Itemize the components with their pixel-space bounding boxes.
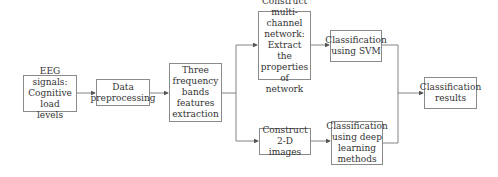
node-label: Classification results	[420, 82, 481, 104]
node-eeg-signals: EEG signals: Cognitive load levels	[23, 75, 77, 112]
node-label: Classification using deep learning metho…	[326, 121, 387, 165]
node-label: Construct multi-channel network: Extract…	[261, 0, 308, 95]
node-svm-classification: Classification using SVM	[330, 30, 382, 62]
node-frequency-features: Three frequency bands features extractio…	[169, 63, 222, 122]
node-label: Construct 2-D images	[262, 125, 308, 158]
node-label: Data preprocessing	[91, 82, 156, 104]
node-label: Classification using SVM	[325, 35, 386, 57]
node-deep-learning-classification: Classification using deep learning metho…	[331, 121, 383, 165]
node-classification-results: Classification results	[424, 77, 477, 109]
node-data-preprocessing: Data preprocessing	[96, 79, 150, 106]
node-label: EEG signals: Cognitive load levels	[26, 66, 74, 121]
node-2d-images: Construct 2-D images	[259, 128, 311, 155]
node-multichannel-network: Construct multi-channel network: Extract…	[258, 11, 311, 80]
node-label: Three frequency bands features extractio…	[172, 65, 219, 120]
